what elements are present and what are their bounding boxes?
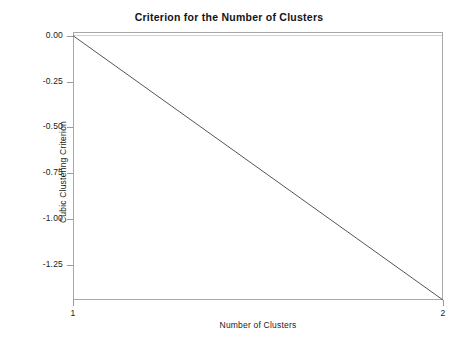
y-tick-label: -0.75	[43, 167, 63, 177]
x-tick-label: 2	[441, 308, 446, 318]
y-tick-label: -1.00	[43, 213, 63, 223]
chart-title: Criterion for the Number of Clusters	[0, 11, 458, 23]
data-series-layer	[73, 32, 443, 300]
x-tick-mark	[73, 300, 74, 306]
y-tick-label: -0.25	[43, 76, 63, 86]
y-tick-label: 0.00	[46, 30, 63, 40]
data-line-0	[73, 36, 443, 300]
x-tick-mark	[443, 300, 444, 306]
y-tick-label: -0.50	[43, 121, 63, 131]
x-axis-title: Number of Clusters	[73, 320, 443, 330]
x-tick-label: 1	[71, 308, 76, 318]
y-tick-label: -1.25	[43, 259, 63, 269]
chart-figure: Criterion for the Number of Clusters Cub…	[0, 0, 458, 344]
